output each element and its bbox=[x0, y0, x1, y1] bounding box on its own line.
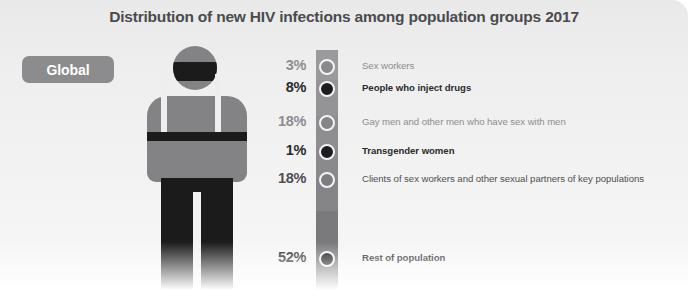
group-label: Clients of sex workers and other sexual … bbox=[362, 173, 644, 184]
percentage-value: 1% bbox=[258, 142, 306, 158]
bar-marker-dot-icon bbox=[319, 81, 335, 97]
percentage-value: 18% bbox=[258, 170, 306, 186]
group-label: People who inject drugs bbox=[362, 82, 471, 93]
percentage-value: 3% bbox=[258, 57, 306, 73]
pictogram-left-arm-gap bbox=[161, 74, 167, 132]
pictogram-head bbox=[173, 46, 217, 90]
bar-marker-dot-icon bbox=[319, 115, 335, 131]
region-badge-global: Global bbox=[22, 56, 114, 83]
page-title: Distribution of new HIV infections among… bbox=[0, 8, 688, 26]
percentage-value: 18% bbox=[258, 113, 306, 129]
group-label: Gay men and other men who have sex with … bbox=[362, 116, 566, 127]
percentage-value: 8% bbox=[258, 79, 306, 95]
bar-marker-dot-icon bbox=[319, 59, 335, 75]
pictogram-torso-band bbox=[147, 132, 247, 141]
infographic-canvas: Distribution of new HIV infections among… bbox=[0, 0, 688, 298]
panel-bottom-fade bbox=[0, 242, 688, 298]
group-label: Transgender women bbox=[362, 145, 454, 156]
group-label: Sex workers bbox=[362, 60, 414, 71]
pictogram-head-band bbox=[173, 62, 217, 81]
bar-marker-dot-icon bbox=[319, 172, 335, 188]
bar-marker-dot-icon bbox=[319, 144, 335, 160]
pictogram-right-arm-gap bbox=[215, 74, 221, 132]
